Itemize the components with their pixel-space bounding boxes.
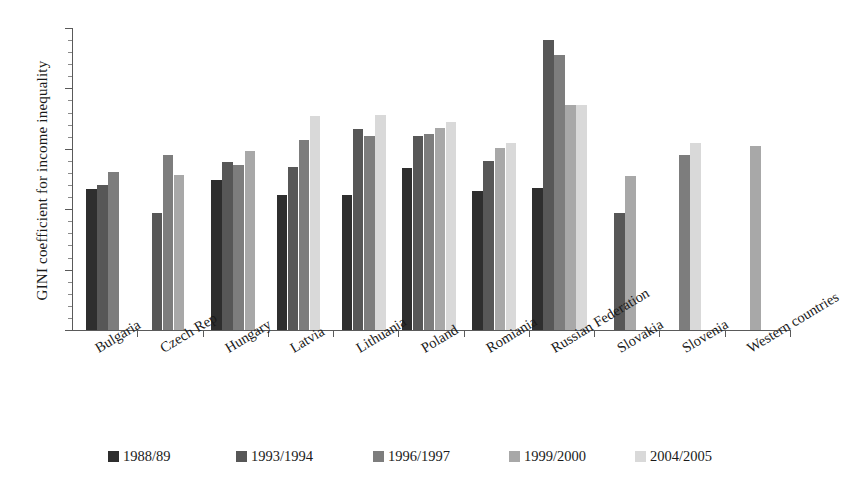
bar-group (268, 28, 333, 330)
legend-swatch (108, 451, 119, 462)
bar-group (529, 28, 594, 330)
y-tick (65, 209, 72, 210)
bar (277, 195, 288, 330)
bar (413, 136, 424, 330)
bar (174, 175, 185, 330)
y-axis-title: GINI coefficient for income inequality (34, 21, 51, 341)
bar-group (725, 28, 790, 330)
legend-label: 1988/89 (123, 449, 171, 464)
bar (299, 140, 310, 330)
bar (342, 195, 353, 330)
bar-group (398, 28, 463, 330)
x-axis-separator (333, 330, 334, 337)
legend-label: 1999/2000 (524, 449, 586, 464)
y-tick (65, 28, 72, 29)
bar (495, 148, 506, 330)
bar (233, 165, 244, 330)
bar (543, 40, 554, 330)
bar (679, 155, 690, 330)
legend-label: 2004/2005 (650, 449, 712, 464)
bar (222, 162, 233, 330)
legend-label: 1996/1997 (388, 449, 450, 464)
y-tick (65, 149, 72, 150)
legend-swatch (236, 451, 247, 462)
bar (483, 161, 494, 330)
bar-group (137, 28, 202, 330)
legend-item: 1999/2000 (509, 449, 586, 464)
x-axis-separator (464, 330, 465, 337)
bar (402, 168, 413, 330)
bar-group (659, 28, 724, 330)
bar (576, 105, 587, 330)
legend-swatch (373, 451, 384, 462)
bar (446, 122, 457, 330)
bar (86, 189, 97, 330)
legend-swatch (509, 451, 520, 462)
bar (472, 191, 483, 330)
bar (288, 167, 299, 330)
bar (554, 55, 565, 330)
bar-group (203, 28, 268, 330)
bar (424, 134, 435, 330)
bar (152, 213, 163, 330)
bar (375, 115, 386, 330)
bar (435, 128, 446, 330)
legend-swatch (635, 451, 646, 462)
bar-group (72, 28, 137, 330)
bar (532, 188, 543, 330)
plot-area: 01020304050 BulgariaCzech RepHungaryLatv… (72, 28, 790, 330)
bar (364, 136, 375, 330)
bar (506, 143, 517, 330)
bar (108, 172, 119, 330)
y-tick (65, 330, 72, 331)
bar (245, 151, 256, 330)
bar-group (333, 28, 398, 330)
bar (565, 105, 576, 330)
bar (211, 180, 222, 330)
legend-label: 1993/1994 (251, 449, 313, 464)
legend-item: 2004/2005 (635, 449, 712, 464)
bar-group (594, 28, 659, 330)
bar (690, 143, 701, 330)
bar-group (464, 28, 529, 330)
bar (353, 129, 364, 330)
bar (163, 155, 174, 330)
y-tick (65, 270, 72, 271)
bar (310, 116, 321, 330)
legend-item: 1993/1994 (236, 449, 313, 464)
y-tick (65, 88, 72, 89)
legend-item: 1996/1997 (373, 449, 450, 464)
bar (97, 185, 108, 330)
chart-legend: 1988/891993/19941996/19971999/20002004/2… (108, 449, 728, 469)
bar (750, 146, 761, 330)
legend-item: 1988/89 (108, 449, 171, 464)
